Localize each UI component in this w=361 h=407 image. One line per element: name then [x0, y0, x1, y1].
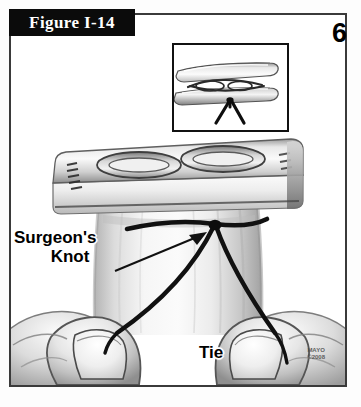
copyright-watermark: MAYO ©2008 — [307, 347, 325, 361]
callout-tie: Tie — [199, 343, 223, 363]
surgeons-knot-node — [209, 220, 222, 230]
step-number: 6 — [332, 20, 347, 47]
callout-surgeons-knot-line1: Surgeon's — [14, 228, 126, 247]
watermark-copyright: ©2008 — [307, 354, 325, 361]
inset-detail-panel — [172, 43, 289, 132]
figure-frame: MAYO ©2008 — [9, 13, 347, 387]
figure-page: MAYO ©2008 Figure I-14 6 Surgeon's Knot … — [0, 0, 361, 407]
watermark-org: MAYO — [307, 347, 325, 354]
callout-surgeons-knot: Surgeon's Knot — [14, 228, 126, 266]
callout-surgeons-knot-line2: Knot — [14, 247, 126, 266]
figure-number-banner: Figure I-14 — [9, 9, 135, 36]
figure-number-label: Figure I-14 — [29, 13, 115, 33]
